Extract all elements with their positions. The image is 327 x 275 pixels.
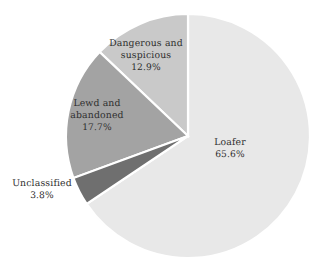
slice-label-dangerous-value: 12.9% [100, 62, 192, 74]
slice-label-lewd-and-abandoned: Lewd and abandoned 17.7% [54, 98, 140, 135]
pie-chart: Loafer 65.6% Dangerous and suspicious 12… [0, 0, 327, 275]
slice-label-unclassified: Unclassified 3.8% [2, 178, 82, 202]
slice-label-dangerous-and-suspicious: Dangerous and suspicious 12.9% [100, 38, 192, 75]
slice-label-loafer-name: Loafer [193, 137, 267, 149]
slice-label-loafer: Loafer 65.6% [193, 137, 267, 161]
slice-label-unclassified-value: 3.8% [2, 190, 82, 202]
slice-label-dangerous-line2: suspicious [100, 50, 192, 62]
slice-label-lewd-line2: abandoned [54, 110, 140, 122]
slice-label-dangerous-line1: Dangerous and [100, 38, 192, 50]
slice-label-unclassified-name: Unclassified [2, 178, 82, 190]
slice-label-loafer-value: 65.6% [193, 149, 267, 161]
slice-label-lewd-value: 17.7% [54, 122, 140, 134]
slice-label-lewd-line1: Lewd and [54, 98, 140, 110]
